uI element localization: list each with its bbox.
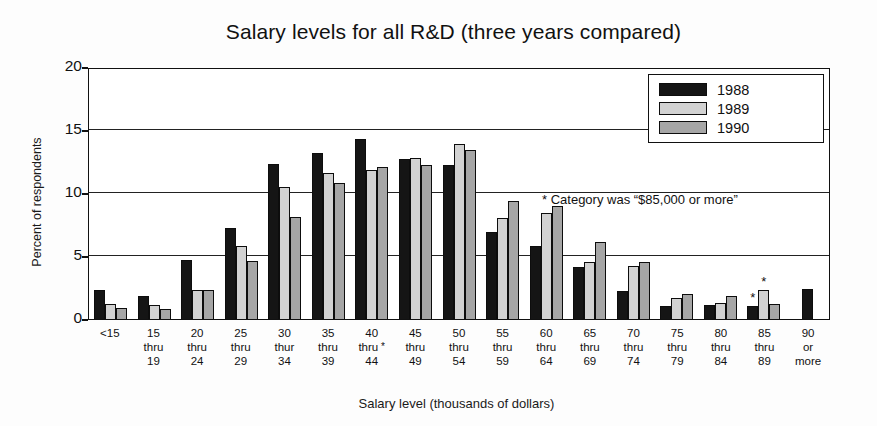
x-tick-label: 30thur34 bbox=[263, 326, 307, 368]
x-tick-label: 90ormore bbox=[786, 326, 830, 368]
legend-item-1988[interactable]: 1988 bbox=[659, 80, 815, 99]
x-tick-label: 45thru49 bbox=[393, 326, 437, 368]
legend-item-1990[interactable]: 1990 bbox=[659, 118, 815, 137]
bar-1990-13[interactable] bbox=[682, 294, 693, 319]
x-axis-title: Salary level (thousands of dollars) bbox=[0, 396, 877, 411]
bar-1988-6[interactable] bbox=[355, 139, 366, 319]
x-tick-line: thru bbox=[655, 340, 699, 354]
y-tick-label: 0 bbox=[42, 309, 82, 327]
chart-figure: Salary levels for all R&D (three years c… bbox=[0, 0, 877, 426]
bar-1990-1[interactable] bbox=[160, 309, 171, 319]
y-tick-label: 10 bbox=[42, 183, 82, 201]
legend: 198819891990 bbox=[648, 74, 824, 143]
x-tick-label: 65thru69 bbox=[568, 326, 612, 368]
bar-group bbox=[437, 69, 481, 319]
bar-1988-1[interactable] bbox=[138, 296, 149, 319]
bar-1988-8[interactable] bbox=[443, 165, 454, 319]
bar-1989-14[interactable] bbox=[715, 303, 726, 319]
bar-1990-5[interactable] bbox=[334, 183, 345, 319]
bar-1989-5[interactable] bbox=[323, 173, 334, 319]
bar-1988-11[interactable] bbox=[573, 267, 584, 319]
bar-1988-14[interactable] bbox=[704, 305, 715, 319]
x-tick-label: 55thru59 bbox=[481, 326, 525, 368]
x-tick-line: 34 bbox=[263, 354, 307, 368]
x-tick-line: thru bbox=[175, 340, 219, 354]
x-tick-line: thru bbox=[612, 340, 656, 354]
legend-swatch-icon bbox=[659, 121, 707, 134]
bar-1989-7[interactable] bbox=[410, 158, 421, 319]
x-tick-line: 79 bbox=[655, 354, 699, 368]
bar-1990-2[interactable] bbox=[203, 290, 214, 319]
bar-1990-9[interactable] bbox=[508, 201, 519, 319]
bar-1989-13[interactable] bbox=[671, 298, 682, 319]
x-tick-line: 45 bbox=[393, 326, 437, 340]
legend-item-1989[interactable]: 1989 bbox=[659, 99, 815, 118]
bar-1990-15[interactable] bbox=[769, 304, 780, 319]
bar-1989-8[interactable] bbox=[454, 144, 465, 319]
x-tick-line: thru bbox=[437, 340, 481, 354]
bar-1988-9[interactable] bbox=[486, 232, 497, 319]
bar-1988-13[interactable] bbox=[660, 306, 671, 319]
bar-1988-10[interactable] bbox=[530, 246, 541, 319]
asterisk-icon: * bbox=[750, 294, 755, 302]
bar-1988-12[interactable] bbox=[617, 291, 628, 319]
bar-1990-12[interactable] bbox=[639, 262, 650, 319]
x-tick-line: 64 bbox=[524, 354, 568, 368]
x-tick-line: 15 bbox=[132, 326, 176, 340]
y-tick-label: 15 bbox=[42, 120, 82, 138]
bar-1988-3[interactable] bbox=[225, 228, 236, 319]
bar-1989-15[interactable]: * bbox=[758, 290, 769, 319]
x-tick-line: 85 bbox=[743, 326, 787, 340]
footnote-annotation: * Category was “$85,000 or more” bbox=[542, 192, 738, 207]
bar-1988-16[interactable] bbox=[802, 289, 813, 319]
bar-1990-3[interactable] bbox=[247, 261, 258, 319]
x-tick-line: or bbox=[786, 340, 830, 354]
bar-1988-4[interactable] bbox=[268, 164, 279, 319]
x-tick-line: 55 bbox=[481, 326, 525, 340]
bar-1988-7[interactable] bbox=[399, 159, 410, 319]
bar-1989-6[interactable] bbox=[366, 170, 377, 319]
legend-swatch-icon bbox=[659, 102, 707, 115]
x-tick-line: 44 bbox=[350, 354, 394, 368]
bar-1990-6[interactable] bbox=[377, 167, 388, 319]
bar-group bbox=[350, 69, 394, 319]
bar-group bbox=[133, 69, 177, 319]
legend-swatch-icon bbox=[659, 83, 707, 96]
x-tick-line: thru bbox=[132, 340, 176, 354]
bar-1988-15[interactable]: * bbox=[747, 306, 758, 319]
bar-1989-11[interactable] bbox=[584, 262, 595, 319]
legend-label: 1990 bbox=[717, 120, 749, 136]
bar-1989-9[interactable] bbox=[497, 218, 508, 319]
x-tick-line: 70 bbox=[612, 326, 656, 340]
bar-group bbox=[220, 69, 264, 319]
x-tick-label: 15thru19 bbox=[132, 326, 176, 368]
x-tick-line: thru bbox=[219, 340, 263, 354]
bar-1988-0[interactable] bbox=[94, 290, 105, 319]
bar-1989-3[interactable] bbox=[236, 246, 247, 319]
bar-1989-2[interactable] bbox=[192, 290, 203, 319]
x-tick-label: 25thru29 bbox=[219, 326, 263, 368]
bar-1988-2[interactable] bbox=[181, 260, 192, 319]
bar-1990-11[interactable] bbox=[595, 242, 606, 319]
x-tick-label: 35thru39 bbox=[306, 326, 350, 368]
x-tick-line: 75 bbox=[655, 326, 699, 340]
x-tick-line bbox=[88, 354, 132, 368]
bar-1990-0[interactable] bbox=[116, 308, 127, 319]
bar-1989-12[interactable] bbox=[628, 266, 639, 319]
bar-1990-7[interactable] bbox=[421, 165, 432, 319]
x-tick-line: thru bbox=[743, 340, 787, 354]
x-tick-line: 49 bbox=[393, 354, 437, 368]
bar-1989-10[interactable] bbox=[541, 213, 552, 319]
bar-1990-10[interactable] bbox=[552, 206, 563, 319]
bar-1990-8[interactable] bbox=[465, 150, 476, 319]
bar-1989-4[interactable] bbox=[279, 187, 290, 319]
x-tick-line: 80 bbox=[699, 326, 743, 340]
bar-1988-5[interactable] bbox=[312, 153, 323, 319]
bar-1989-1[interactable] bbox=[149, 305, 160, 319]
x-tick-line: more bbox=[786, 354, 830, 368]
x-tick-line: 40 bbox=[350, 326, 394, 340]
x-tick-label: 50thru54 bbox=[437, 326, 481, 368]
bar-1990-4[interactable] bbox=[290, 217, 301, 319]
bar-1989-0[interactable] bbox=[105, 304, 116, 319]
bar-1990-14[interactable] bbox=[726, 296, 737, 319]
